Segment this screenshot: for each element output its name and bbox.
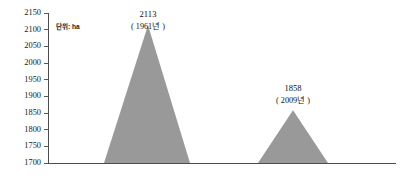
peak-value-label-1: 2113 bbox=[140, 9, 157, 19]
y-tick-label: 1950 bbox=[24, 75, 41, 84]
unit-note-label: 단위: ha bbox=[56, 22, 80, 31]
peak-year-label-1: ( 1961년 ) bbox=[131, 21, 165, 31]
series-peak-1 bbox=[104, 25, 190, 163]
chart-axes bbox=[44, 13, 396, 163]
series-shapes bbox=[104, 25, 328, 163]
y-tick-label: 1900 bbox=[24, 91, 41, 100]
peak-year-label-2: ( 2009년 ) bbox=[276, 95, 310, 105]
y-tick-label: 1850 bbox=[24, 108, 41, 117]
y-tick-label: 2150 bbox=[24, 8, 41, 17]
y-tick-label: 2000 bbox=[24, 58, 41, 67]
y-tick-label: 2050 bbox=[24, 41, 41, 50]
y-axis-tick-labels: 2150210020502000195019001850180017501700 bbox=[24, 8, 41, 167]
chart-container: 2150210020502000195019001850180017501700… bbox=[0, 0, 413, 185]
y-tick-label: 1800 bbox=[24, 125, 41, 134]
peak-area-chart: 2150210020502000195019001850180017501700… bbox=[0, 0, 413, 185]
series-peak-2 bbox=[258, 110, 328, 163]
y-tick-label: 1700 bbox=[24, 158, 41, 167]
peak-value-label-2: 1858 bbox=[284, 83, 301, 93]
y-tick-label: 2100 bbox=[24, 25, 41, 34]
y-tick-label: 1750 bbox=[24, 141, 41, 150]
